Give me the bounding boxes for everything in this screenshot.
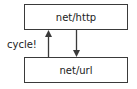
arrow-down-icon: [73, 30, 80, 57]
arrow-up-icon: [45, 30, 52, 57]
edges: [0, 0, 137, 89]
